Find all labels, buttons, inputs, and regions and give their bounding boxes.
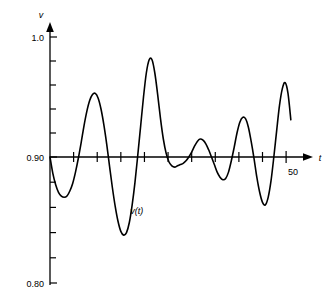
data-curve: [50, 58, 291, 235]
chart-figure: v t 1.0 0.90 0.80 50 v(t): [0, 0, 329, 296]
x-tick-label-50: 50: [288, 167, 298, 177]
curve-label-vt: v(t): [130, 206, 143, 216]
y-axis-name-label: v: [39, 10, 44, 20]
y-tick-label-mid: 0.90: [26, 153, 44, 163]
x-axis-arrow-icon: [303, 153, 313, 161]
waveform-chart-svg: v t 1.0 0.90 0.80 50 v(t): [0, 0, 329, 296]
y-tick-label-top: 1.0: [31, 33, 44, 43]
x-axis-name-label: t: [319, 153, 322, 163]
y-tick-label-bottom: 0.80: [26, 279, 44, 289]
y-axis-arrow-icon: [46, 22, 54, 32]
